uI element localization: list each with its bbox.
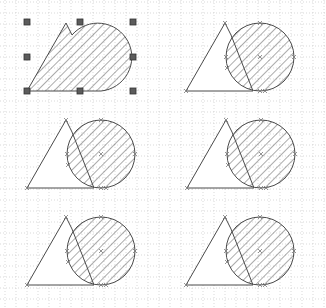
resize-handle[interactable] (24, 19, 30, 25)
shapes-layer (25, 21, 297, 287)
resize-handle[interactable] (130, 88, 136, 94)
resize-handle[interactable] (77, 88, 83, 94)
resize-handle[interactable] (130, 54, 136, 60)
diagram-svg[interactable] (0, 0, 326, 308)
shape-bottom-right[interactable] (184, 215, 296, 287)
shape-middle-left[interactable] (25, 118, 137, 190)
shape-middle-right[interactable] (185, 118, 297, 190)
resize-handle[interactable] (130, 19, 136, 25)
resize-handle[interactable] (77, 19, 83, 25)
drawing-canvas[interactable] (0, 0, 326, 308)
shape-top-right[interactable] (184, 21, 296, 93)
resize-handle[interactable] (24, 54, 30, 60)
shape-bottom-left[interactable] (25, 215, 137, 287)
resize-handle[interactable] (24, 88, 30, 94)
